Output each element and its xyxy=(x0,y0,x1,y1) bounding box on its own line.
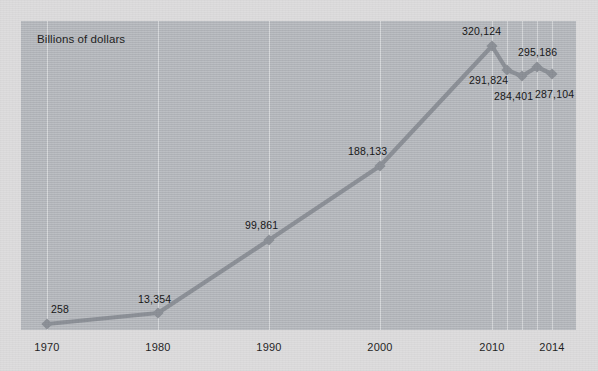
data-label-1990: 99,861 xyxy=(245,219,278,231)
x-tick-1990: 1990 xyxy=(239,341,299,353)
data-label-2012: 284,401 xyxy=(494,90,533,102)
chart-title: Billions of dollars xyxy=(37,33,125,45)
data-series-line xyxy=(21,21,576,330)
series-polyline xyxy=(47,46,552,324)
x-tick-1970: 1970 xyxy=(17,341,77,353)
data-label-2011: 291,824 xyxy=(469,74,508,86)
data-label-2013: 295,186 xyxy=(518,46,557,58)
data-label-2010: 320,124 xyxy=(462,25,501,37)
x-tick-1980: 1980 xyxy=(128,341,188,353)
x-tick-2010: 2010 xyxy=(462,341,522,353)
data-label-2000: 188,133 xyxy=(348,145,387,157)
chart-plot-area[interactable]: Billions of dollars 25813,35499,861188,1… xyxy=(21,21,576,330)
data-label-2014: 287,104 xyxy=(535,88,574,100)
x-tick-2000: 2000 xyxy=(350,341,410,353)
data-label-1970: 258 xyxy=(51,303,69,315)
data-label-1980: 13,354 xyxy=(138,293,171,305)
data-point-marker-1970[interactable] xyxy=(41,318,52,329)
line-chart-figure: Billions of dollars 25813,35499,861188,1… xyxy=(0,0,598,371)
x-tick-2014: 2014 xyxy=(522,341,582,353)
